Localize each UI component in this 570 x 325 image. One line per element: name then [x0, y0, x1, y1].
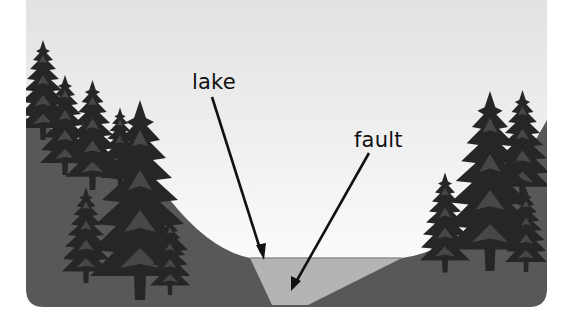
lake-label: lake [192, 70, 236, 94]
fault-label: fault [354, 128, 403, 152]
valley-diagram [0, 0, 570, 325]
